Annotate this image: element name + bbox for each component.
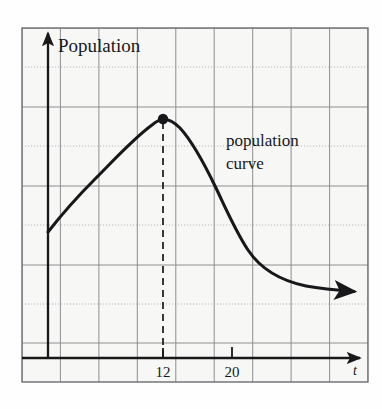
x-tick-label-20: 20 [225,364,240,380]
figure-canvas: Population population curve 12 20 t [0,0,382,409]
curve-annotation-line-1: population [226,131,299,150]
curve-annotation-line-2: curve [226,154,264,173]
x-tick-label-12: 12 [156,364,171,380]
graph-paper-background [22,28,368,382]
population-curve-figure: Population population curve 12 20 t [0,0,382,409]
y-axis-label: Population [58,35,141,56]
peak-point-marker [158,114,168,124]
